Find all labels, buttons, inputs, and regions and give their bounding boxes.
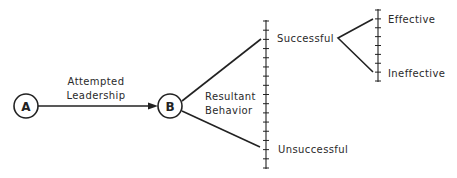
branch-effective-ineffective xyxy=(338,19,373,72)
branch-unsuccessful xyxy=(182,111,260,147)
branch-label-line1: Resultant xyxy=(205,91,256,102)
outcome-unsuccessful: Unsuccessful xyxy=(278,144,348,155)
node-a-label: A xyxy=(21,100,31,114)
edge-label-line1: Attempted xyxy=(68,76,125,87)
sub-outcome-effective: Effective xyxy=(388,14,435,25)
sub-outcome-ineffective: Ineffective xyxy=(388,68,445,79)
node-b-label: B xyxy=(165,100,174,114)
leadership-diagram: A B Attempted Leadership Resultant Behav… xyxy=(0,0,457,178)
outcome-successful: Successful xyxy=(277,33,334,44)
branch-label-line2: Behavior xyxy=(205,105,253,116)
arrowhead-icon xyxy=(148,103,158,110)
edge-label-line2: Leadership xyxy=(67,90,126,101)
